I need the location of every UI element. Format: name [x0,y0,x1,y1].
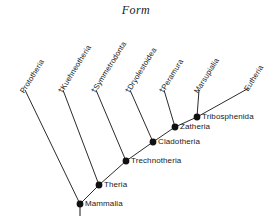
node-label-cladotheria: Cladotheria [158,137,200,146]
node-dot-trechnotheria [123,158,130,165]
branch-peramura [164,90,175,127]
cladogram-figure: Form Prototheria †Kuehneotheria †Symmetr… [0,0,272,224]
node-dot-theria [96,182,103,189]
node-dot-tribosphenida [194,114,201,121]
branch-symmetrodonta [96,90,126,161]
node-label-zatheria: Zatheria [180,122,210,131]
branch-prototheria [25,90,80,204]
node-dot-mammalia [77,201,84,208]
node-label-tribosphenida: Tribosphenida [202,112,254,121]
branch-dryolestoidea [130,90,153,142]
node-label-trechnotheria: Trechnotheria [131,156,181,165]
branch-kuehneotheria [63,90,99,185]
node-dot-cladotheria [150,139,157,146]
node-dot-zatheria [172,124,179,131]
node-label-mammalia: Mammalia [85,199,123,208]
node-label-theria: Theria [104,180,127,189]
